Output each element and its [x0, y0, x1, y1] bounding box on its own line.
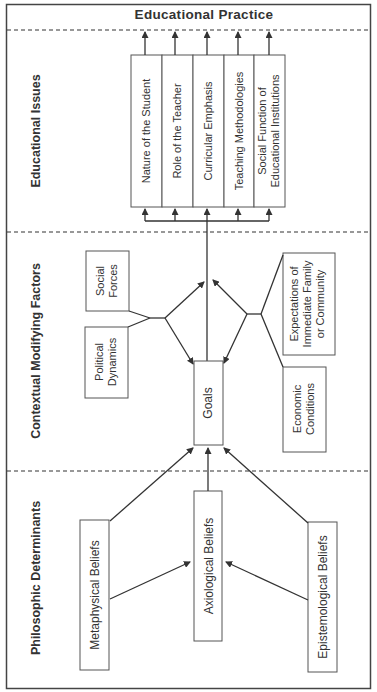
issue-label: Teaching Methodologies	[233, 71, 245, 190]
metaphysical-beliefs-label: Metaphysical Beliefs	[88, 540, 102, 649]
issues-group: Nature of the Student Role of the Teache…	[131, 55, 285, 207]
issue-label: Role of the Teacher	[171, 83, 183, 179]
title-educational-practice: Educational Practice	[135, 7, 274, 22]
axiological-beliefs-label: Axiological Beliefs	[202, 518, 216, 615]
section-label-contextual-modifying-factors: Contextual Modifying Factors	[29, 263, 43, 439]
goals-label: Goals	[201, 387, 215, 418]
epistemological-beliefs-label: Epistemological Beliefs	[316, 535, 330, 658]
expectations-label: or Community	[314, 269, 326, 338]
section-label-educational-issues: Educational Issues	[29, 74, 43, 187]
issue-label: Educational Institutions	[269, 74, 281, 188]
expectations-label: Expectations of	[288, 265, 300, 341]
issue-label: Social Function of	[256, 86, 268, 174]
issue-label: Curricular Emphasis	[202, 81, 214, 181]
expectations-label: Immediate Family	[301, 260, 313, 347]
social-forces-label: Forces	[107, 264, 119, 298]
economic-conditions-label: Conditions	[304, 383, 316, 435]
right-factors-connector	[213, 255, 283, 367]
political-dynamics-label: Political	[93, 343, 105, 381]
educational-practice-diagram: Educational Practice Educational Issues …	[0, 0, 377, 692]
political-dynamics-label: Dynamics	[106, 337, 118, 386]
left-factors-connector	[128, 282, 204, 364]
social-forces-label: Social	[94, 266, 106, 296]
economic-conditions-label: Economic	[291, 384, 303, 433]
section-label-philosophic-determinants: Philosophic Determinants	[29, 501, 43, 655]
arrows-to-practice	[145, 32, 269, 55]
issue-label: Nature of the Student	[140, 79, 152, 184]
